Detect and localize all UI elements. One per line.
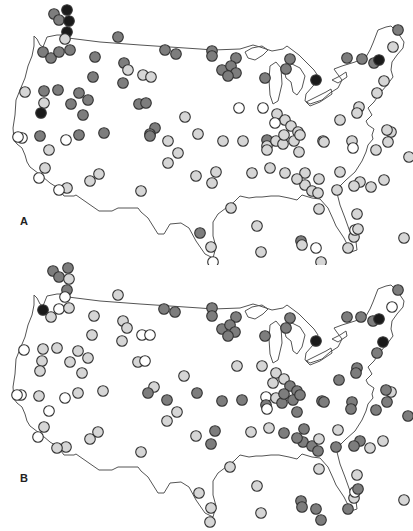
station-dot-medium <box>210 426 221 437</box>
station-dot-light <box>146 72 157 83</box>
station-dot-light <box>319 137 330 148</box>
station-dot-light <box>257 361 268 372</box>
station-dot-light <box>313 188 324 199</box>
station-dot-medium <box>223 71 234 82</box>
station-dot-white <box>348 143 359 154</box>
station-dot-light <box>246 427 257 438</box>
station-dot-medium <box>74 130 85 141</box>
station-dot-medium <box>159 304 170 315</box>
station-dot-light <box>332 185 343 196</box>
station-dot-light <box>163 158 174 169</box>
station-dot-light <box>379 175 390 186</box>
station-dot-light <box>207 178 218 189</box>
station-dot-medium <box>141 98 152 109</box>
station-dot-light <box>77 368 88 379</box>
panel-label-b: B <box>20 472 28 484</box>
station-dot-white <box>387 302 398 313</box>
station-dot-medium <box>393 25 404 36</box>
station-dot-light <box>113 290 124 301</box>
station-dot-medium <box>90 52 101 63</box>
station-dot-medium <box>65 45 76 56</box>
station-dot-light <box>265 163 276 174</box>
station-dot-medium <box>357 54 368 65</box>
station-dot-light <box>194 488 205 499</box>
station-dot-white <box>44 406 55 417</box>
station-dot-medium <box>113 32 124 43</box>
station-dot-medium <box>54 47 65 58</box>
station-dot-medium <box>170 307 181 318</box>
station-dot-light <box>335 115 346 126</box>
station-dot-medium <box>319 397 330 408</box>
station-dot-medium <box>78 110 89 121</box>
station-dot-medium <box>206 439 217 450</box>
station-dot-light <box>206 242 217 253</box>
station-dot-white <box>33 432 44 443</box>
us-map-a <box>0 0 413 265</box>
station-dot-light <box>226 203 237 214</box>
station-dot-medium <box>53 85 64 96</box>
station-dot-light <box>262 145 273 156</box>
station-dot-medium <box>145 131 156 142</box>
station-dot-light <box>371 145 382 156</box>
station-dot-light <box>46 312 57 323</box>
station-dot-light <box>179 371 190 382</box>
station-dot-medium <box>118 78 129 89</box>
station-dot-light <box>349 181 360 192</box>
station-dot-light <box>136 447 147 458</box>
station-dot-light <box>399 233 410 244</box>
station-dot-medium <box>74 88 85 99</box>
station-dot-medium <box>285 313 296 324</box>
station-dot-light <box>343 243 354 254</box>
station-dot-medium <box>311 504 322 515</box>
station-dot-medium <box>83 95 94 106</box>
station-dot-light <box>64 274 75 285</box>
station-dot-white <box>262 404 273 415</box>
station-dot-light <box>379 76 390 87</box>
station-dot-light <box>20 87 31 98</box>
station-dot-medium <box>316 515 327 526</box>
station-dot-medium <box>292 433 303 444</box>
station-dot-medium <box>171 49 182 60</box>
station-dot-light <box>247 168 258 179</box>
station-dot-medium <box>334 375 345 386</box>
station-dot-light <box>172 407 183 418</box>
station-dot-medium <box>382 397 393 408</box>
station-dot-dark <box>311 336 322 347</box>
station-dot-light <box>37 356 48 367</box>
station-dot-light <box>218 136 229 147</box>
station-dot-medium <box>381 385 392 396</box>
station-dot-medium <box>260 73 271 84</box>
station-dot-light <box>297 240 308 251</box>
station-dot-light <box>268 378 279 389</box>
station-dot-light <box>89 311 100 322</box>
station-dot-medium <box>331 442 342 453</box>
station-dot-light <box>314 174 325 185</box>
station-dot-white <box>60 292 71 303</box>
station-dot-light <box>85 176 96 187</box>
station-dot-light <box>123 65 134 76</box>
panel-label-a: A <box>20 215 28 227</box>
station-dot-light <box>44 145 55 156</box>
station-dot-light <box>352 470 363 481</box>
station-dot-medium <box>313 446 324 457</box>
station-dot-white <box>54 185 65 196</box>
station-dot-medium <box>371 405 382 416</box>
station-dots-b <box>12 263 413 531</box>
station-dot-medium <box>195 228 206 239</box>
map-panel-b: B <box>0 255 413 531</box>
station-dot-light <box>35 366 46 377</box>
station-dot-medium <box>217 396 228 407</box>
station-dot-white <box>19 345 30 356</box>
station-dot-dark <box>374 55 385 66</box>
station-dot-light <box>256 508 267 519</box>
station-dot-medium <box>295 390 306 401</box>
station-dot-light <box>294 147 305 158</box>
station-dot-light <box>64 303 75 314</box>
station-dot-medium <box>39 86 50 97</box>
station-dot-light <box>314 434 325 445</box>
station-dot-medium <box>223 331 234 342</box>
station-dot-light <box>73 388 84 399</box>
station-dot-light <box>292 174 303 185</box>
station-dot-light <box>383 137 394 148</box>
station-dot-light <box>264 423 275 434</box>
